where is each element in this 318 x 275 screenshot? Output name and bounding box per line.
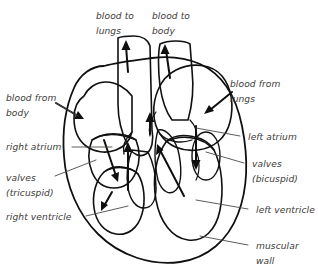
label-right-ventricle: right ventricle bbox=[6, 212, 72, 222]
label-blood-to-body-line1: blood to bbox=[152, 11, 190, 21]
label-muscular-wall-line2: wall bbox=[256, 256, 275, 266]
arrow-blood-from-lungs bbox=[204, 92, 232, 114]
label-right-atrium: right atrium bbox=[6, 142, 62, 152]
label-blood-from-lungs-line1: blood from bbox=[230, 79, 280, 89]
arrow-left-ventricle-to-aorta bbox=[156, 144, 184, 196]
label-valves-bicuspid-line2: (bicuspid) bbox=[252, 174, 298, 184]
label-left-atrium: left atrium bbox=[248, 132, 297, 142]
label-blood-from-body-line1: blood from bbox=[6, 93, 56, 103]
label-valves-tricuspid-line1: valves bbox=[6, 173, 36, 183]
label-valves-tricuspid-line2: (tricuspid) bbox=[6, 188, 54, 198]
label-blood-to-body-line2: body bbox=[152, 26, 175, 36]
diagram-labels: blood to lungs blood to body blood from … bbox=[6, 11, 315, 266]
heart-diagram-figure: blood to lungs blood to body blood from … bbox=[0, 0, 318, 275]
label-left-ventricle: left ventricle bbox=[256, 205, 315, 215]
arrow-right-ventricle-to-pulmonary bbox=[124, 142, 133, 190]
arrow-right-atrium-to-ventricle bbox=[104, 140, 119, 182]
label-blood-from-body-line2: body bbox=[6, 108, 29, 118]
arrow-blood-to-lungs bbox=[122, 40, 131, 72]
leader-right-ventricle bbox=[86, 206, 128, 216]
arrow-blood-to-body bbox=[161, 44, 171, 78]
oxygenated-blood-chambers bbox=[154, 41, 232, 240]
leader-valves-bicuspid bbox=[206, 152, 244, 163]
label-muscular-wall-line1: muscular bbox=[256, 241, 300, 251]
heart-cross-section-svg: blood to lungs blood to body blood from … bbox=[0, 0, 318, 275]
arrow-right-ventricle-inflow bbox=[101, 192, 112, 211]
label-valves-bicuspid-line1: valves bbox=[252, 159, 282, 169]
label-blood-from-lungs-line2: lungs bbox=[230, 94, 255, 104]
label-blood-to-lungs-line1: blood to bbox=[96, 11, 134, 21]
label-blood-to-lungs-line2: lungs bbox=[96, 26, 121, 36]
